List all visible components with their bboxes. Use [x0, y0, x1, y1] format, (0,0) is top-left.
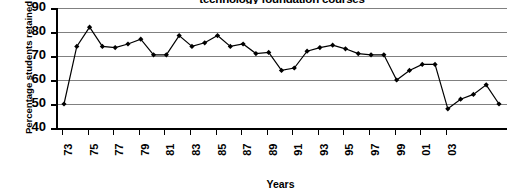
x-tick-mark: [190, 130, 191, 135]
x-tick-label: 85: [216, 144, 227, 170]
x-tick-label: 73: [63, 144, 74, 170]
x-tick-label: 97: [370, 144, 381, 170]
x-tick-label: 99: [395, 144, 406, 170]
data-point-marker: [420, 62, 425, 67]
data-point-marker: [202, 40, 207, 45]
x-axis-title: Years: [56, 178, 505, 190]
x-tick-mark: [267, 130, 268, 135]
x-tick-mark: [139, 130, 140, 135]
y-tick-label: 90: [16, 2, 46, 12]
x-tick-label: 77: [114, 144, 125, 170]
x-tick-mark: [62, 130, 63, 135]
x-tick-mark: [446, 130, 447, 135]
x-tick-mark: [292, 130, 293, 135]
data-point-marker: [356, 51, 361, 56]
data-point-marker: [125, 41, 130, 46]
data-point-marker: [61, 101, 66, 106]
x-tick-label: 89: [267, 144, 278, 170]
x-tick-mark: [318, 130, 319, 135]
x-tick-label: 87: [242, 144, 253, 170]
x-tick-label: 81: [165, 144, 176, 170]
data-point-marker: [432, 62, 437, 67]
x-tick-label: 83: [190, 144, 201, 170]
x-tick-label: 01: [421, 144, 432, 170]
data-point-marker: [330, 43, 335, 48]
x-tick-label: 75: [88, 144, 99, 170]
chart-title: technology foundation courses: [72, 0, 492, 4]
data-point-marker: [343, 46, 348, 51]
x-tick-mark: [164, 130, 165, 135]
line-chart-svg: [58, 8, 507, 128]
plot-area: [56, 8, 507, 130]
y-tick-label: 70: [16, 50, 46, 60]
x-tick-mark: [420, 130, 421, 135]
y-tick-label: 40: [16, 122, 46, 132]
data-point-marker: [113, 45, 118, 50]
x-tick-label: 91: [293, 144, 304, 170]
x-tick-mark: [343, 130, 344, 135]
y-tick-label: 80: [16, 26, 46, 36]
x-tick-label: 93: [318, 144, 329, 170]
x-tick-mark: [395, 130, 396, 135]
x-tick-label: 03: [446, 144, 457, 170]
data-point-marker: [317, 45, 322, 50]
x-tick-mark: [88, 130, 89, 135]
x-tick-label: 79: [139, 144, 150, 170]
gridlines: [58, 9, 507, 105]
chart-container: technology foundation courses Percentage…: [0, 0, 511, 192]
x-tick-mark: [241, 130, 242, 135]
x-tick-label: 95: [344, 144, 355, 170]
x-tick-mark: [216, 130, 217, 135]
x-tick-mark: [113, 130, 114, 135]
x-tick-mark: [369, 130, 370, 135]
y-tick-label: 50: [16, 98, 46, 108]
y-tick-label: 60: [16, 74, 46, 84]
